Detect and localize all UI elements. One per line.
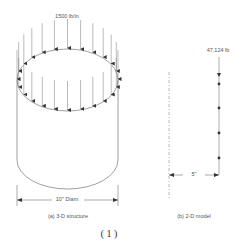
cylinder-bottom-arc — [17, 160, 118, 189]
cylinder — [17, 49, 118, 189]
point-load-arrowhead — [217, 73, 221, 77]
offset-label: 5" — [191, 172, 196, 178]
structure-diagram: 1500 lb/in 10" Diam (a) 3-D structure 47… — [0, 0, 243, 248]
diagram-canvas — [0, 0, 243, 248]
figure-number: (1) — [101, 228, 120, 239]
distributed-load-arrows — [17, 19, 118, 110]
node — [218, 83, 221, 86]
model-load-label: 47,124 lb — [207, 48, 230, 54]
node — [218, 107, 221, 110]
node — [218, 132, 221, 135]
caption-a: (a) 3-D structure — [48, 214, 88, 220]
diameter-label: 10" Diam — [56, 197, 78, 203]
load-label: 1500 lb/in — [55, 14, 79, 20]
caption-b: (b) 2-D model — [177, 214, 211, 220]
node — [218, 157, 221, 160]
